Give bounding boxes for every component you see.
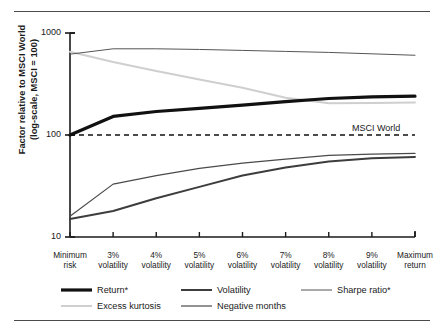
legend-item-volatility[interactable]: Volatility bbox=[180, 284, 251, 296]
chart-figure: Factor relative to MSCI World (log-scale… bbox=[0, 0, 444, 328]
legend-item-sharpe-ratio[interactable]: Sharpe ratio* bbox=[300, 284, 391, 296]
series-line-negative-months bbox=[70, 153, 415, 216]
reference-line-label: MSCI World bbox=[352, 123, 400, 133]
x-axis-label-line: Maximum bbox=[389, 250, 441, 260]
legend-swatch-negative-months bbox=[180, 300, 213, 312]
legend-label-negative-months: Negative months bbox=[217, 301, 286, 311]
legend-label-sharpe-ratio: Sharpe ratio* bbox=[337, 285, 391, 295]
series-line-sharpe-ratio bbox=[70, 49, 415, 55]
legend-label-return: Return* bbox=[97, 285, 128, 295]
top-divider-rule bbox=[14, 11, 430, 12]
legend-swatch-sharpe-ratio bbox=[300, 284, 333, 296]
legend-label-volatility: Volatility bbox=[217, 285, 251, 295]
legend-swatch-volatility bbox=[180, 284, 213, 296]
legend-label-excess-kurtosis: Excess kurtosis bbox=[97, 301, 161, 311]
y-axis-title-line-2: (log-scale, MSCI = 100) bbox=[28, 0, 40, 180]
legend-swatch-excess-kurtosis bbox=[60, 300, 93, 312]
legend-item-negative-months[interactable]: Negative months bbox=[180, 300, 286, 312]
bottom-divider-rule bbox=[14, 320, 430, 321]
y-axis-tick-label: 1000 bbox=[41, 27, 61, 37]
legend-item-excess-kurtosis[interactable]: Excess kurtosis bbox=[60, 300, 161, 312]
y-axis-tick-label: 100 bbox=[46, 129, 61, 139]
legend-item-return[interactable]: Return* bbox=[60, 284, 128, 296]
x-axis-labels: Minimumrisk3%volatility4%volatility5%vol… bbox=[0, 250, 444, 278]
y-axis-title: Factor relative to MSCI World (log-scale… bbox=[17, 0, 40, 180]
legend-swatch-return bbox=[60, 284, 93, 296]
x-axis-label-line: return bbox=[389, 260, 441, 270]
y-axis-tick-label: 10 bbox=[51, 231, 61, 241]
series-line-volatility bbox=[70, 157, 415, 219]
y-axis-title-line-1: Factor relative to MSCI World bbox=[17, 0, 29, 180]
x-axis-label: Maximumreturn bbox=[389, 250, 441, 270]
chart-legend: Return*VolatilitySharpe ratio*Excess kur… bbox=[0, 284, 444, 318]
series-line-excess-kurtosis bbox=[70, 52, 415, 103]
